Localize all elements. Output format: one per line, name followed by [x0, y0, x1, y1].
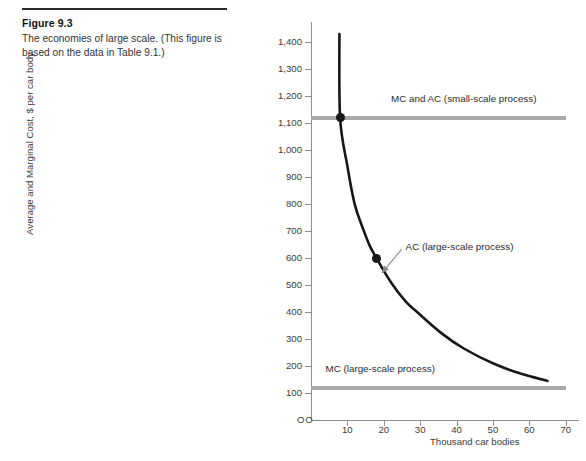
y-axis-tick-label: 800	[262, 198, 302, 209]
x-axis-tick-label: 50	[481, 424, 505, 435]
y-axis-tick	[305, 393, 311, 394]
data-point-marker	[336, 113, 345, 122]
x-axis-title: Thousand car bodies	[430, 436, 520, 447]
y-axis-tick-label: 1,000	[262, 144, 302, 155]
chart-plot-area: Average and Marginal Cost, $ per car bod…	[0, 0, 586, 461]
y-axis-tick-label: 200	[262, 360, 302, 371]
y-axis-tick	[305, 42, 311, 43]
y-axis-tick	[305, 366, 311, 367]
y-axis-tick-label: 600	[262, 252, 302, 263]
cost-line	[311, 386, 566, 390]
series-annotation-label: MC and AC (small-scale process)	[391, 93, 536, 104]
x-axis-tick-label: 70	[554, 424, 578, 435]
y-axis-tick-label: 500	[262, 279, 302, 290]
y-axis-tick	[305, 177, 311, 178]
y-axis-tick-label: 900	[262, 171, 302, 182]
x-axis-tick-label: 10	[335, 424, 359, 435]
y-axis-tick-label: 300	[262, 333, 302, 344]
y-axis-tick-label: 400	[262, 306, 302, 317]
y-axis-tick	[305, 150, 311, 151]
y-axis-line	[311, 22, 312, 420]
figure-root: Figure 9.3 The economies of large scale.…	[0, 0, 586, 461]
series-annotation-label: AC (large-scale process)	[406, 241, 514, 252]
x-axis-origin-label: O	[297, 414, 321, 425]
cost-line	[311, 116, 566, 120]
series-annotation-label: MC (large-scale process)	[326, 363, 435, 374]
y-axis-tick-label: 1,400	[262, 36, 302, 47]
y-axis-tick-label: 700	[262, 225, 302, 236]
x-axis-tick-label: 60	[517, 424, 541, 435]
y-axis-tick	[305, 285, 311, 286]
y-axis-tick-label: 1,300	[262, 63, 302, 74]
y-axis-tick-label: 100	[262, 387, 302, 398]
y-axis-tick	[305, 204, 311, 205]
x-axis-tick-label: 40	[445, 424, 469, 435]
x-axis-line	[311, 420, 579, 421]
y-axis-tick	[305, 96, 311, 97]
y-axis-title: Average and Marginal Cost, $ per car bod…	[24, 19, 35, 269]
y-axis-tick	[305, 258, 311, 259]
x-axis-tick-label: 20	[372, 424, 396, 435]
y-axis-tick-label: 1,100	[262, 117, 302, 128]
y-axis-tick	[305, 231, 311, 232]
y-axis-tick	[305, 69, 311, 70]
x-axis-tick-label: 30	[408, 424, 432, 435]
y-axis-tick-label: 1,200	[262, 90, 302, 101]
y-axis-tick	[305, 339, 311, 340]
data-point-marker	[372, 254, 381, 263]
y-axis-tick	[305, 312, 311, 313]
y-axis-tick	[305, 123, 311, 124]
